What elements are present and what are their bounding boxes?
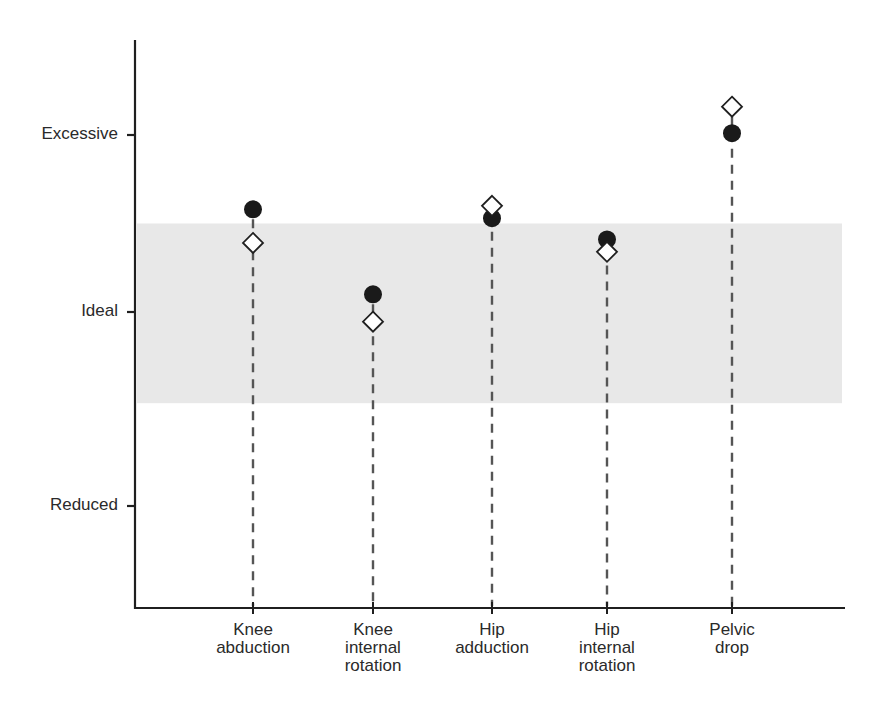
x-tick-label-line: Knee: [193, 621, 313, 639]
filled-circle-marker: [244, 200, 262, 218]
filled-circle-marker: [723, 124, 741, 142]
y-tick-label: Reduced: [0, 495, 118, 515]
x-tick-label: Hipinternalrotation: [547, 621, 667, 675]
filled-circle-marker: [364, 285, 382, 303]
x-tick-label-line: rotation: [547, 657, 667, 675]
x-tick-label-line: Hip: [547, 621, 667, 639]
x-tick-label-line: adduction: [432, 639, 552, 657]
x-tick-label: Hipadduction: [432, 621, 552, 657]
x-tick-label: Pelvicdrop: [672, 621, 792, 657]
y-tick-label: Excessive: [0, 124, 118, 144]
x-tick-label: Kneeinternalrotation: [313, 621, 433, 675]
x-tick-label-line: Hip: [432, 621, 552, 639]
x-tick-label-line: Pelvic: [672, 621, 792, 639]
x-tick-label-line: abduction: [193, 639, 313, 657]
ideal-range-band: [137, 224, 842, 404]
y-tick-label: Ideal: [0, 301, 118, 321]
y-ticks: [127, 135, 135, 506]
x-tick-label-line: drop: [672, 639, 792, 657]
x-tick-label-line: internal: [313, 639, 433, 657]
x-tick-label-line: internal: [547, 639, 667, 657]
x-tick-label: Kneeabduction: [193, 621, 313, 657]
open-diamond-marker: [722, 97, 742, 117]
x-tick-label-line: rotation: [313, 657, 433, 675]
chart-plot: [0, 0, 879, 712]
x-tick-label-line: Knee: [313, 621, 433, 639]
